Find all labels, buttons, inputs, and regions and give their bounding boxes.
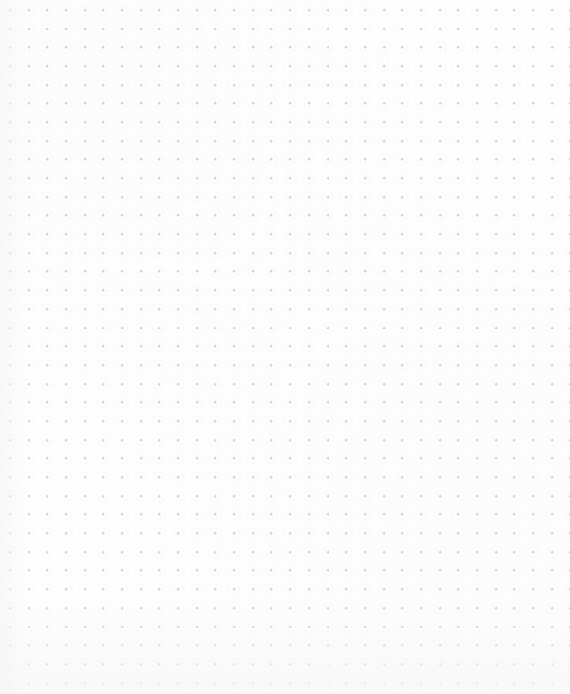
dot-grid-canvas[interactable]: [0, 0, 570, 694]
paper-sheet: [0, 0, 570, 694]
